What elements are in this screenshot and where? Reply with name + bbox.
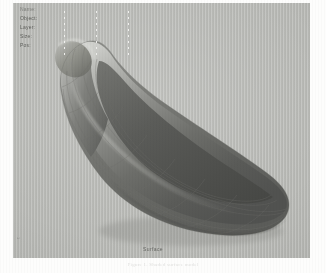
construction-guide-line-3 bbox=[128, 11, 129, 57]
page-root: Name: Object: Layer: Size: Pos: Surface … bbox=[0, 0, 326, 273]
info-label-layer: Layer: bbox=[15, 24, 37, 30]
info-label-object: Object: bbox=[15, 15, 37, 21]
info-label-size: Size: bbox=[15, 33, 37, 39]
status-readout: Surface bbox=[143, 246, 163, 252]
info-label-pos: Pos: bbox=[15, 42, 37, 48]
figure-caption: Figure 1. Shaded surface model bbox=[0, 262, 326, 268]
model-layer bbox=[13, 3, 310, 258]
info-label-panel: Name: Object: Layer: Size: Pos: bbox=[15, 6, 37, 48]
nurbs-surface-model[interactable] bbox=[13, 3, 310, 258]
construction-guide-line-2 bbox=[96, 11, 97, 57]
info-label-name: Name: bbox=[15, 6, 37, 12]
edge-marker: 1 bbox=[16, 237, 20, 240]
cad-viewport[interactable]: Name: Object: Layer: Size: Pos: Surface … bbox=[13, 3, 310, 258]
construction-guide-line-1 bbox=[64, 11, 65, 57]
